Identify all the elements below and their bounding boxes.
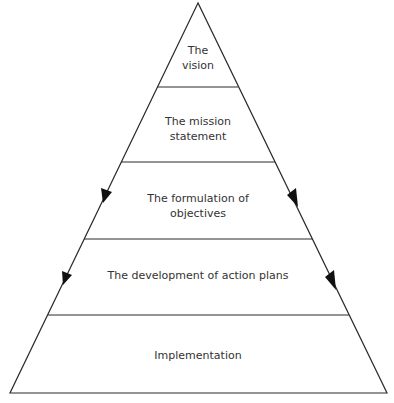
level-action-plans-label: The development of action plans <box>108 268 289 283</box>
label-line: vision <box>182 58 214 73</box>
label-line: The <box>182 43 214 58</box>
label-line: The development of action plans <box>108 268 289 283</box>
label-line: Implementation <box>154 348 241 363</box>
level-objectives-label: The formulation of objectives <box>147 191 249 221</box>
level-vision-label: The vision <box>182 43 214 73</box>
arrow-down-right-icon <box>325 270 336 290</box>
level-mission-label: The mission statement <box>165 114 231 144</box>
label-line: The mission <box>165 114 231 129</box>
label-line: The formulation of <box>147 191 249 206</box>
level-implementation-label: Implementation <box>154 348 241 363</box>
label-line: objectives <box>147 206 249 221</box>
arrow-down-left-icon <box>62 271 72 285</box>
label-line: statement <box>165 129 231 144</box>
